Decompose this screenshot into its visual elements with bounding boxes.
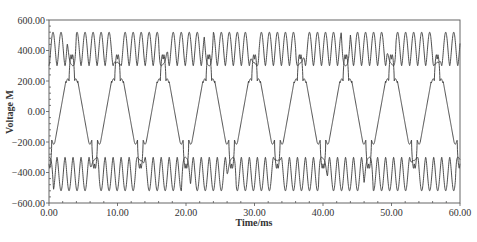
y-tick-label: 400.00	[18, 45, 46, 56]
x-axis-label: Time/ms	[235, 217, 272, 228]
y-tick-label: −200.00	[12, 137, 45, 148]
x-tick-label: 20.00	[175, 207, 198, 218]
x-tick-label: 10.00	[106, 207, 129, 218]
y-axis: 600.00400.00200.000.00−200.00−400.00−600…	[12, 15, 51, 209]
y-axis-label: Voltage M	[4, 90, 15, 134]
x-tick-label: 40.00	[312, 207, 335, 218]
voltage-time-chart: 600.00400.00200.000.00−200.00−400.00−600…	[0, 0, 477, 242]
x-tick-label: 60.00	[449, 207, 472, 218]
lower-trace	[49, 157, 460, 191]
x-axis: 0.0010.0020.0030.0040.0050.0060.00	[40, 201, 471, 218]
plot-traces	[49, 32, 460, 191]
plot-frame	[49, 20, 460, 203]
y-tick-label: 600.00	[18, 15, 46, 26]
x-tick-label: 0.00	[40, 207, 58, 218]
middle-trace	[49, 55, 460, 169]
y-tick-label: 200.00	[18, 76, 46, 87]
y-tick-label: −400.00	[12, 167, 45, 178]
upper-trace	[49, 32, 460, 66]
x-tick-label: 50.00	[380, 207, 403, 218]
y-tick-label: 0.00	[28, 106, 46, 117]
